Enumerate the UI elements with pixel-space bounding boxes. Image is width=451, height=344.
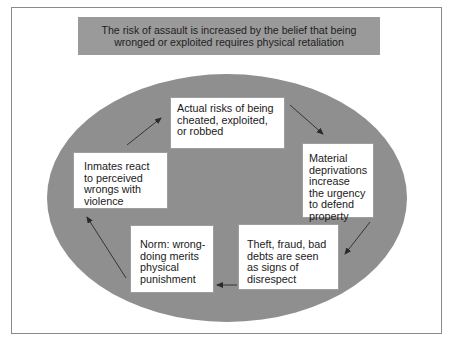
node-theft-fraud: Theft, fraud, bad debts are seen as sign… — [238, 224, 339, 290]
node-inmates-react-text: Inmates react to perceived wrongs with v… — [84, 161, 161, 207]
node-norm-punishment: Norm: wrong-doing merits physical punish… — [130, 225, 214, 293]
node-inmates-react: Inmates react to perceived wrongs with v… — [73, 152, 168, 209]
node-material-deprivations-text: Material deprivations increase the urgen… — [309, 153, 367, 222]
node-norm-punishment-text: Norm: wrong-doing merits physical punish… — [140, 239, 207, 285]
cycle-diagram — [0, 0, 451, 344]
node-actual-risks: Actual risks of being cheated, exploited… — [170, 97, 285, 149]
node-material-deprivations: Material deprivations increase the urgen… — [302, 143, 374, 218]
node-actual-risks-text: Actual risks of being cheated, exploited… — [177, 103, 278, 138]
node-theft-fraud-text: Theft, fraud, bad debts are seen as sign… — [247, 239, 332, 285]
